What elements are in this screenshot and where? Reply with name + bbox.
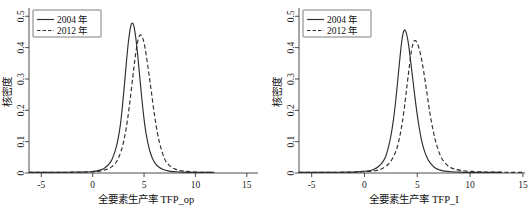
- y-axis-ticks-left: 00.10.20.30.40.5: [16, 10, 29, 175]
- x-tick-label: 0: [90, 180, 95, 190]
- legend-label-2004-left: 2004 年: [57, 14, 88, 25]
- y-axis-title-left: 核密度: [1, 76, 13, 107]
- y-tick-label: 0.5: [286, 10, 296, 22]
- y-tick-label: 0.5: [16, 10, 26, 22]
- y-tick-label: 0.1: [286, 135, 296, 147]
- y-tick-label: 0.4: [16, 41, 26, 53]
- y-tick-label: 0.4: [286, 41, 296, 53]
- y-tick-label: 0.1: [16, 135, 26, 147]
- legend-label-2012-left: 2012 年: [57, 25, 88, 36]
- x-axis-ticks-right: -5051015: [308, 173, 528, 190]
- x-tick-label: 5: [142, 180, 147, 190]
- chart-panel-tfp-op: 00.10.20.30.40.5 -5051015 核密度 全要素生产率 TFP…: [0, 0, 266, 212]
- kernel-density-figure: 00.10.20.30.40.5 -5051015 核密度 全要素生产率 TFP…: [0, 0, 532, 212]
- x-tick-label: 10: [191, 180, 201, 190]
- x-axis-title-left: 全要素生产率 TFP_op: [98, 193, 194, 205]
- x-axis-title-right: 全要素生产率 TFP_I: [369, 193, 459, 205]
- legend-label-2004-right: 2004 年: [327, 14, 358, 25]
- x-tick-label: 10: [465, 180, 475, 190]
- series-line-2012-left: [29, 35, 214, 172]
- y-tick-label: 0.2: [16, 104, 26, 116]
- y-axis-title-right: 核密度: [271, 76, 283, 107]
- legend-right: 2004 年 2012 年: [303, 10, 371, 37]
- x-tick-label: 5: [415, 180, 420, 190]
- legend-label-2012-right: 2012 年: [327, 25, 358, 36]
- x-tick-label: 15: [242, 180, 252, 190]
- y-tick-label: 0.3: [16, 73, 26, 85]
- x-tick-label: -5: [37, 180, 45, 190]
- y-tick-label: 0.2: [286, 104, 296, 116]
- y-axis-ticks-right: 00.10.20.30.40.5: [286, 10, 299, 175]
- y-tick-label: 0.3: [286, 73, 296, 85]
- legend-left: 2004 年 2012 年: [33, 10, 101, 37]
- y-tick-label: 0: [286, 170, 296, 175]
- series-line-2004-right: [299, 30, 502, 172]
- x-tick-label: 15: [518, 180, 528, 190]
- y-tick-label: 0: [16, 170, 26, 175]
- x-tick-label: 0: [362, 180, 367, 190]
- chart-panel-tfp-i: 00.10.20.30.40.5 -5051015 核密度 全要素生产率 TFP…: [266, 0, 532, 212]
- x-axis-ticks-left: -5051015: [37, 173, 251, 190]
- x-tick-label: -5: [308, 180, 316, 190]
